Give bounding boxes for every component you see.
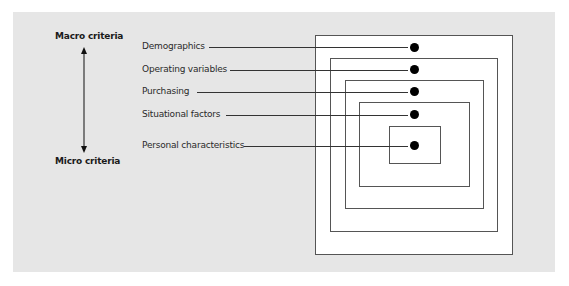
dot-marker [410, 141, 419, 150]
level-label-operating-variables: Operating variables [142, 64, 227, 74]
dot-marker [410, 43, 419, 52]
connector-line [197, 92, 408, 93]
connector-line [209, 47, 408, 48]
dot-marker [410, 87, 419, 96]
connector-line [230, 70, 408, 71]
micro-criteria-label: Micro criteria [55, 156, 120, 166]
dot-marker [410, 110, 419, 119]
macro-criteria-label: Macro criteria [55, 31, 123, 41]
connector-line [244, 146, 408, 147]
level-label-purchasing: Purchasing [142, 86, 189, 96]
connector-line [226, 115, 408, 116]
level-label-situational-factors: Situational factors [142, 109, 220, 119]
level-label-personal-characteristics: Personal characteristics [142, 140, 244, 150]
double-arrow-icon [74, 46, 94, 156]
dot-marker [410, 65, 419, 74]
level-label-demographics: Demographics [142, 41, 205, 51]
